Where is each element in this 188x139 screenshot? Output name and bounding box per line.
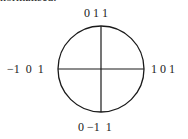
label-bottom: 0 −1 1 [78, 121, 112, 133]
label-right: 1 0 1 [151, 63, 175, 75]
label-left: −1 0 1 [7, 63, 44, 75]
label-top: 0 1 1 [84, 7, 108, 19]
